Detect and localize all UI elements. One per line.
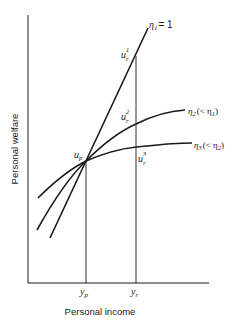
yr-tick-label: yr bbox=[130, 286, 138, 299]
eta1-label: η1= 1 bbox=[149, 19, 173, 32]
eta1-curve bbox=[50, 28, 148, 238]
yp-tick-label: yp bbox=[79, 286, 88, 299]
eta2-label: η2(< η1) bbox=[188, 106, 218, 117]
eta2-curve bbox=[37, 110, 185, 230]
ur2-label: ur2 bbox=[121, 108, 130, 125]
eta3-label: η3(< η2) bbox=[194, 140, 224, 151]
up-label: up bbox=[74, 149, 83, 162]
ur1-label: ur1 bbox=[121, 46, 129, 63]
ur3-label: ur3 bbox=[138, 150, 147, 167]
x-axis-title: Personal income bbox=[65, 306, 136, 317]
welfare-income-diagram: η1= 1 η2(< η1) η3(< η2) up ur1 ur2 ur3 y… bbox=[0, 0, 239, 331]
y-axis-title: Personal welfare bbox=[9, 114, 20, 185]
